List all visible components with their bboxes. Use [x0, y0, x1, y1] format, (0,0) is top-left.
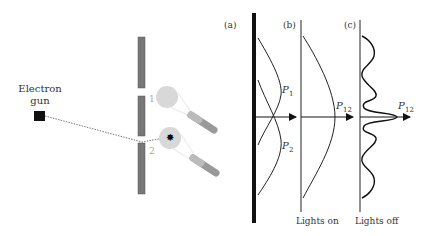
panel-a-tag: (a): [224, 20, 236, 30]
electron-path: [45, 116, 170, 142]
lamp-2: [193, 158, 216, 173]
panel-c: (c) P 12 Lights off: [344, 20, 414, 226]
slit-2-label: 2: [149, 146, 155, 156]
p12-off-label: P: [397, 100, 405, 111]
p12-on-label: P: [335, 100, 343, 111]
electron-gun: Electron gun: [18, 83, 62, 121]
panel-b-tag: (b): [283, 20, 296, 30]
slit-barrier: 1 2: [138, 37, 155, 194]
lights-off-caption: Lights off: [355, 216, 399, 226]
double-slit-diagram: Electron gun 1 2 ✸ (a) P 1 P 2: [0, 0, 432, 236]
lamp-1: [191, 115, 214, 130]
svg-text:1: 1: [289, 90, 293, 98]
panel-c-tag: (c): [344, 20, 356, 30]
svg-text:12: 12: [405, 106, 414, 114]
p1-label: P: [281, 84, 289, 95]
panel-a: (a) P 1 P 2: [224, 13, 296, 223]
svg-text:12: 12: [343, 106, 352, 114]
panel-b: (b) P 12 Lights on: [283, 20, 353, 226]
slit-1-label: 1: [149, 94, 155, 104]
p1-curve: [258, 38, 281, 145]
p2-label: P: [281, 140, 289, 151]
electron-gun-label-1: Electron: [18, 83, 62, 94]
light-glow-1: [156, 86, 178, 108]
electron-flash-icon: ✸: [166, 132, 174, 143]
electron-gun-label-2: gun: [30, 95, 50, 106]
svg-text:2: 2: [289, 146, 293, 154]
lights-on-caption: Lights on: [296, 216, 339, 226]
